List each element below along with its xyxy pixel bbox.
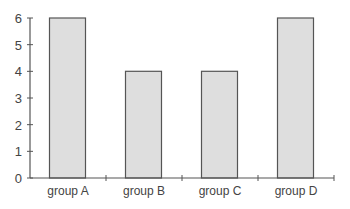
y-axis: 0123456 bbox=[15, 11, 33, 186]
x-category-label: group D bbox=[275, 184, 318, 198]
bar-group-b bbox=[126, 71, 162, 178]
y-tick-label: 5 bbox=[15, 38, 22, 53]
x-category-label: group A bbox=[47, 184, 88, 198]
x-axis: group Agroup Bgroup Cgroup D bbox=[30, 175, 334, 198]
bars bbox=[50, 18, 314, 178]
bar-group-a bbox=[50, 18, 86, 178]
x-category-label: group C bbox=[199, 184, 242, 198]
x-category-label: group B bbox=[123, 184, 165, 198]
y-tick-label: 4 bbox=[15, 64, 22, 79]
bar-chart: 0123456 group Agroup Bgroup Cgroup D bbox=[0, 0, 350, 209]
bar-group-c bbox=[202, 71, 238, 178]
y-tick-label: 1 bbox=[15, 144, 22, 159]
y-tick-label: 3 bbox=[15, 91, 22, 106]
y-tick-label: 2 bbox=[15, 118, 22, 133]
bar-group-d bbox=[278, 18, 314, 178]
y-tick-label: 6 bbox=[15, 11, 22, 26]
y-tick-label: 0 bbox=[15, 171, 22, 186]
